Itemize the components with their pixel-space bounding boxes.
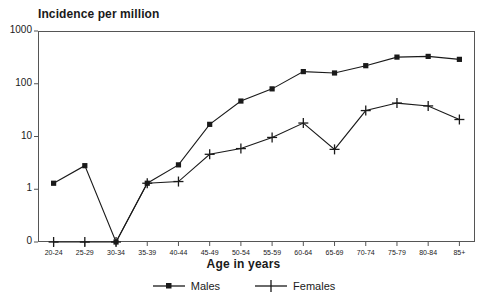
x-axis-tick-label: 55-59 [263, 249, 281, 256]
series-line-males [51, 54, 462, 245]
data-point-marker [176, 162, 181, 167]
x-axis-tick-label: 60-64 [294, 249, 312, 256]
x-axis-tick-label: 65-69 [326, 249, 344, 256]
legend-marker-square-icon [152, 279, 186, 293]
x-axis-title: Age in years [0, 257, 487, 271]
y-axis-ticks [34, 31, 38, 242]
y-axis-tick-label: 0 [0, 235, 32, 246]
series-line-females [49, 98, 465, 247]
data-point-marker [270, 86, 275, 91]
x-axis-tick-label: 70-74 [357, 249, 375, 256]
x-axis-tick-label: 30-34 [107, 249, 125, 256]
legend-item-males[interactable]: Males [152, 279, 220, 293]
x-axis-tick-label: 75-79 [388, 249, 406, 256]
y-axis-tick-label: 100 [0, 77, 32, 88]
y-axis-tick-label: 1000 [0, 24, 32, 35]
data-point-marker [51, 181, 56, 186]
series-polyline [54, 56, 460, 242]
x-axis-tick-label: 40-44 [170, 249, 188, 256]
data-point-marker [426, 54, 431, 59]
y-axis-tick-label: 1 [0, 182, 32, 193]
legend-label: Males [191, 280, 220, 292]
data-point-marker [394, 55, 399, 60]
data-point-marker [82, 163, 87, 168]
x-axis-tick-label: 85+ [453, 249, 465, 256]
y-axis-tick-label: 10 [0, 130, 32, 141]
series-polyline [54, 103, 460, 242]
x-axis-tick-label: 20-24 [45, 249, 63, 256]
data-point-marker [363, 63, 368, 68]
data-point-marker [332, 70, 337, 75]
x-axis-tick-label: 45-49 [201, 249, 219, 256]
chart-legend: MalesFemales [0, 279, 487, 293]
x-axis-tick-label: 50-54 [232, 249, 250, 256]
x-axis-tick-label: 80-84 [419, 249, 437, 256]
x-axis-tick-label: 25-29 [76, 249, 94, 256]
data-point-marker [457, 57, 462, 62]
data-point-marker [207, 122, 212, 127]
data-point-marker [301, 69, 306, 74]
chart-page: Incidence per million 01101001000 20-242… [0, 0, 487, 305]
legend-label: Females [293, 280, 335, 292]
data-point-marker [238, 98, 243, 103]
legend-item-females[interactable]: Females [254, 279, 335, 293]
x-axis-tick-label: 35-39 [138, 249, 156, 256]
legend-marker-plus-icon [254, 279, 288, 293]
